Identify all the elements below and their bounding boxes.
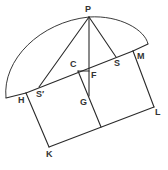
label-f: F: [91, 71, 97, 80]
geometry-figure: [0, 0, 168, 170]
label-p: P: [85, 5, 91, 14]
arc-curve: [6, 17, 148, 98]
label-l: L: [155, 108, 161, 117]
line-h-k: [26, 93, 49, 147]
label-k: K: [46, 150, 53, 159]
label-s: S: [114, 59, 120, 68]
label-s-prime: S′: [36, 90, 44, 99]
arc-right-connector: [133, 44, 148, 51]
label-h: H: [18, 96, 25, 105]
diagram-canvas: P C F S M H S′ G L K: [0, 0, 168, 170]
line-p-s-prime: [39, 17, 89, 87]
label-g: G: [80, 98, 87, 107]
line-p-s: [89, 17, 116, 57]
label-m: M: [137, 52, 145, 61]
label-c: C: [70, 60, 77, 69]
